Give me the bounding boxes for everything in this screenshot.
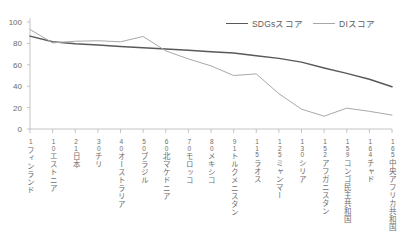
- x-tick-country: フィンランド: [26, 146, 34, 194]
- x-tick-rank: 60: [162, 138, 169, 151]
- x-tick-label-group: 159コンゴ民主共和国: [340, 138, 354, 223]
- x-tick-country: アフガニスタン: [320, 159, 328, 215]
- x-tick-rank: 125: [275, 138, 282, 158]
- x-tick-rank: 159: [343, 138, 350, 158]
- x-tick-country: トルクメニスタン: [230, 152, 238, 216]
- x-tick-rank: 50: [140, 138, 147, 151]
- x-tick-country: エストニア: [49, 152, 57, 192]
- x-tick-rank: 80: [208, 138, 215, 151]
- x-tick-country: モロッコ: [184, 152, 192, 184]
- x-tick-label-group: 164チャド: [362, 138, 376, 183]
- x-tick-rank: 30: [94, 138, 101, 151]
- x-tick-label-group: 70モロッコ: [181, 138, 195, 184]
- x-tick-country: シリア: [298, 159, 306, 183]
- x-tick-country: 中央アフリカ共和国: [388, 159, 396, 231]
- x-tick-label-group: 21日本: [68, 138, 82, 168]
- x-tick-country: ブラジル: [139, 152, 147, 184]
- x-tick-rank: 70: [185, 138, 192, 151]
- x-tick-country: チャド: [365, 159, 373, 183]
- chart-container: SDGsスコアDIスコア 020406080100 1フィンランド10エストニア…: [0, 0, 398, 246]
- x-tick-country: 北マケドニア: [162, 152, 170, 200]
- x-tick-rank: 115: [253, 138, 260, 158]
- data-series: [30, 29, 392, 116]
- x-tick-country: 日本: [71, 152, 79, 168]
- x-tick-rank: 1: [27, 138, 34, 145]
- x-tick-rank: 91: [230, 138, 237, 151]
- x-tick-label-group: 125ミャンマー: [272, 138, 286, 199]
- series-line-sdgs: [30, 36, 392, 87]
- x-tick-label-group: 10エストニア: [46, 138, 60, 192]
- axes: [27, 18, 392, 133]
- x-tick-label-group: 130シリア: [295, 138, 309, 183]
- x-tick-country: ミャンマー: [275, 159, 283, 199]
- x-tick-label-group: 1フィンランド: [23, 138, 37, 194]
- x-tick-rank: 130: [298, 138, 305, 158]
- x-tick-country: メキシコ: [207, 152, 215, 184]
- x-tick-label-group: 30チリ: [91, 138, 105, 168]
- x-tick-label-group: 165中央アフリカ共和国: [385, 138, 398, 231]
- x-tick-label-group: 60北マケドニア: [159, 138, 173, 200]
- x-tick-country: ラオス: [252, 159, 260, 183]
- x-tick-label-group: 80メキシコ: [204, 138, 218, 184]
- x-tick-rank: 10: [49, 138, 56, 151]
- x-tick-country: チリ: [94, 152, 102, 168]
- x-tick-rank: 164: [366, 138, 373, 158]
- series-line-di: [30, 29, 392, 116]
- x-tick-label-group: 115ラオス: [249, 138, 263, 183]
- x-tick-rank: 21: [72, 138, 79, 151]
- x-tick-label-group: 50ブラジル: [136, 138, 150, 184]
- x-tick-country: コンゴ民主共和国: [343, 159, 351, 223]
- x-tick-rank: 40: [117, 138, 124, 151]
- x-tick-rank: 152: [321, 138, 328, 158]
- x-tick-label-group: 40オーストラリア: [114, 138, 128, 208]
- x-tick-label-group: 152アフガニスタン: [317, 138, 331, 215]
- x-tick-label-group: 91トルクメニスタン: [227, 138, 241, 216]
- x-axis-labels: 1フィンランド10エストニア21日本30チリ40オーストラリア50ブラジル60北…: [0, 134, 398, 246]
- x-tick-country: オーストラリア: [117, 152, 125, 208]
- x-tick-rank: 165: [389, 138, 396, 158]
